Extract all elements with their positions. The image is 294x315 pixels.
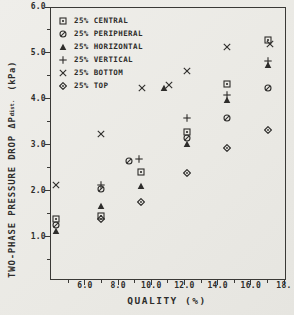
x-cross-icon (59, 69, 67, 77)
data-point-25-horizontal (97, 202, 105, 210)
data-point-25-horizontal (52, 227, 60, 235)
legend-label: 25% VERTICAL (74, 55, 133, 64)
plot-area: 25% CENTRAL25% PERIPHERAL25% HORIZONTAL2… (50, 7, 286, 280)
data-point-25-top (183, 169, 191, 177)
triangle-filled-icon (59, 43, 67, 51)
legend-item-25-top: 25% TOP (59, 79, 143, 92)
y-axis-minor-tick (47, 75, 50, 76)
circle-slash-icon (59, 30, 67, 38)
data-point-25-top (223, 144, 231, 152)
data-point-25-vertical (264, 57, 272, 65)
square-dot-icon (59, 17, 67, 25)
y-axis-tick-label: 1.0 (22, 232, 46, 241)
legend-item-25-central: 25% CENTRAL (59, 14, 143, 27)
x-axis-minor-tick (101, 280, 102, 283)
data-point-25-peripheral (125, 157, 133, 165)
x-axis-minor-tick (267, 280, 268, 283)
data-point-25-bottom (165, 81, 173, 89)
x-axis-label: QUALITY (%) (50, 295, 284, 306)
x-axis-tick-label: 14.0 (205, 281, 231, 290)
y-axis-tick-label: 4.0 (22, 94, 46, 103)
data-point-25-vertical (223, 91, 231, 99)
y-axis-minor-tick (47, 167, 50, 168)
data-point-25-bottom (97, 130, 105, 138)
legend-label: 25% CENTRAL (74, 16, 128, 25)
data-point-25-vertical (183, 114, 191, 122)
y-axis-tick-label: 5.0 (22, 48, 46, 57)
x-axis-minor-tick (134, 280, 135, 283)
x-axis-tick-label: 16.0 (238, 281, 264, 290)
y-axis-tick-label: 2.0 (22, 186, 46, 195)
y-axis-minor-tick (47, 259, 50, 260)
x-axis-tick-label: 12.0 (171, 281, 197, 290)
y-axis-label-text: TWO-PHASE PRESSURE DROP ΔP (7, 116, 17, 278)
data-point-25-central (223, 80, 231, 88)
y-axis-label: TWO-PHASE PRESSURE DROP ΔPdist. (kPa) (4, 7, 19, 278)
legend-item-25-vertical: 25% VERTICAL (59, 53, 143, 66)
y-axis-minor-tick (47, 29, 50, 30)
x-axis-minor-tick (234, 280, 235, 283)
legend-item-25-bottom: 25% BOTTOM (59, 66, 143, 79)
legend-label: 25% TOP (74, 81, 108, 90)
data-point-25-vertical (97, 181, 105, 189)
x-axis-tick-label: 6.0 (72, 281, 98, 290)
y-axis-units: (kPa) (7, 61, 17, 91)
data-point-25-top (264, 126, 272, 134)
data-point-25-bottom (266, 40, 274, 48)
y-axis-tick-label: 6.0 (22, 2, 46, 11)
y-axis-minor-tick (47, 121, 50, 122)
data-point-25-top (97, 215, 105, 223)
y-axis-label-subscript: dist. (9, 100, 15, 117)
data-point-25-bottom (52, 181, 60, 189)
data-point-25-horizontal (183, 140, 191, 148)
figure-canvas: TWO-PHASE PRESSURE DROP ΔPdist. (kPa) 25… (0, 0, 294, 315)
legend-item-25-peripheral: 25% PERIPHERAL (59, 27, 143, 40)
data-point-25-vertical (135, 155, 143, 163)
x-axis-minor-tick (68, 280, 69, 283)
data-point-25-bottom (183, 67, 191, 75)
legend-item-25-horizontal: 25% HORIZONTAL (59, 40, 143, 53)
data-point-25-bottom (223, 43, 231, 51)
diamond-dot-icon (59, 82, 67, 90)
data-point-25-peripheral (264, 84, 272, 92)
data-point-25-bottom (138, 84, 146, 92)
legend: 25% CENTRAL25% PERIPHERAL25% HORIZONTAL2… (59, 14, 143, 92)
x-axis-tick-label: 18. (271, 281, 294, 290)
y-axis-tick-label: 3.0 (22, 140, 46, 149)
data-point-25-peripheral (223, 114, 231, 122)
legend-label: 25% PERIPHERAL (74, 29, 143, 38)
plus-icon (59, 56, 67, 64)
y-axis-minor-tick (47, 213, 50, 214)
data-point-25-horizontal (137, 182, 145, 190)
x-axis-tick-label: 8.0 (105, 281, 131, 290)
data-point-25-top (137, 198, 145, 206)
x-axis-minor-tick (167, 280, 168, 283)
x-axis-tick-label: 10.0 (138, 281, 164, 290)
data-point-25-central (137, 168, 145, 176)
legend-label: 25% BOTTOM (74, 68, 123, 77)
legend-label: 25% HORIZONTAL (74, 42, 143, 51)
x-axis-minor-tick (201, 280, 202, 283)
